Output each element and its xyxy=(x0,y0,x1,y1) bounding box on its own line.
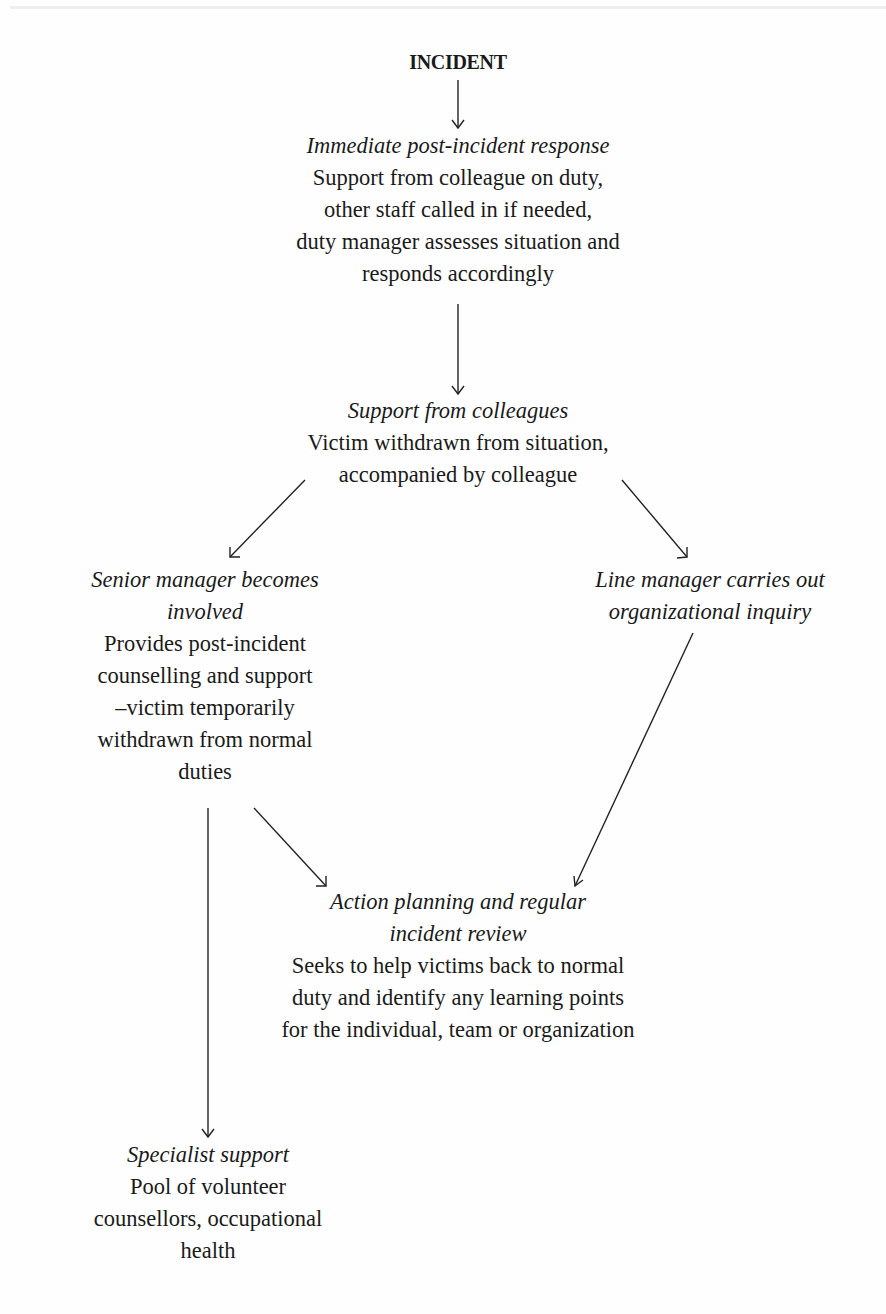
arrow-senior-to-specialist xyxy=(202,808,214,1137)
node-senior-manager: Senior manager becomes involved Provides… xyxy=(40,564,370,788)
node-title: INCIDENT xyxy=(358,46,558,78)
node-incident: INCIDENT xyxy=(358,46,558,78)
node-title: Senior manager becomes involved xyxy=(40,564,370,628)
node-title: Support from colleagues xyxy=(268,395,648,427)
arrow-colleagues-to-senior xyxy=(230,480,305,557)
arrow-line-manager-to-action xyxy=(574,633,693,886)
arrow-immediate-to-colleagues xyxy=(452,304,464,394)
arrow-colleagues-to-line-manager xyxy=(622,480,687,558)
node-title: Action planning and regular incident rev… xyxy=(218,886,698,950)
node-body: Support from colleague on duty, other st… xyxy=(238,162,678,290)
node-body: Seeks to help victims back to normal dut… xyxy=(218,950,698,1046)
node-title: Line manager carries out organizational … xyxy=(540,564,880,628)
node-support-from-colleagues: Support from colleagues Victim withdrawn… xyxy=(268,395,648,491)
node-immediate-response: Immediate post-incident response Support… xyxy=(238,130,678,290)
node-body: Victim withdrawn from situation, accompa… xyxy=(268,427,648,491)
arrow-senior-to-action xyxy=(254,808,326,886)
node-title: Specialist support xyxy=(58,1139,358,1171)
arrow-incident-to-immediate xyxy=(452,80,464,128)
node-body: Provides post-incident counselling and s… xyxy=(40,628,370,788)
node-title: Immediate post-incident response xyxy=(238,130,678,162)
node-line-manager: Line manager carries out organizational … xyxy=(540,564,880,628)
bleed-through-rule xyxy=(10,6,886,9)
node-action-planning: Action planning and regular incident rev… xyxy=(218,886,698,1046)
node-body: Pool of volunteer counsellors, occupatio… xyxy=(58,1171,358,1267)
node-specialist-support: Specialist support Pool of volunteer cou… xyxy=(58,1139,358,1267)
book-page: INCIDENT Immediate post-incident respons… xyxy=(0,0,886,1314)
